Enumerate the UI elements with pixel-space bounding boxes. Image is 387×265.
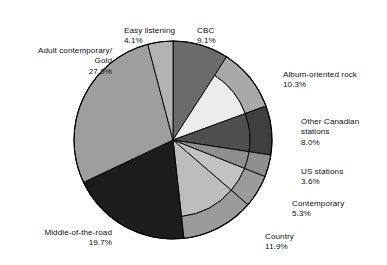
label-album-oriented-rock-pct: 10.3% bbox=[283, 80, 387, 90]
label-contemporary-pct: 5.3% bbox=[292, 209, 387, 219]
label-other-canadian-stations-pct: 8.0% bbox=[301, 138, 387, 148]
label-adult-contemporary-gold-pct: 27.9% bbox=[2, 67, 112, 77]
label-easy-listening-pct: 4.1% bbox=[124, 36, 175, 46]
label-middle-of-the-road-name: Middle-of-the-road bbox=[44, 228, 112, 237]
label-adult-contemporary-gold: Adult contemporary/ Gold 27.9% bbox=[2, 36, 112, 87]
label-middle-of-the-road: Middle-of-the-road 19.7% bbox=[4, 218, 112, 259]
label-other-canadian-stations-name: Other Canadian stations bbox=[301, 117, 359, 136]
label-country: Country 11.9% bbox=[265, 222, 360, 263]
label-easy-listening-name: Easy listening bbox=[124, 26, 175, 35]
pie-chart-figure: Easy listening 4.1% CBC 9.1% Adult conte… bbox=[0, 0, 387, 265]
label-easy-listening: Easy listening 4.1% bbox=[124, 16, 175, 57]
label-country-name: Country bbox=[265, 232, 294, 241]
label-adult-contemporary-gold-name: Adult contemporary/ Gold bbox=[38, 46, 112, 65]
label-contemporary-name: Contemporary bbox=[292, 199, 344, 208]
label-album-oriented-rock-name: Album-oriented rock bbox=[283, 70, 357, 79]
label-middle-of-the-road-pct: 19.7% bbox=[4, 238, 112, 248]
label-us-stations-name: US stations bbox=[301, 167, 343, 176]
label-cbc-pct: 9.1% bbox=[197, 36, 216, 46]
label-album-oriented-rock: Album-oriented rock 10.3% bbox=[283, 60, 387, 101]
label-cbc: CBC 9.1% bbox=[197, 16, 216, 57]
label-cbc-name: CBC bbox=[197, 26, 214, 35]
label-country-pct: 11.9% bbox=[265, 242, 360, 252]
label-other-canadian-stations: Other Canadian stations 8.0% bbox=[301, 107, 387, 158]
label-us-stations-pct: 3.6% bbox=[301, 177, 387, 187]
